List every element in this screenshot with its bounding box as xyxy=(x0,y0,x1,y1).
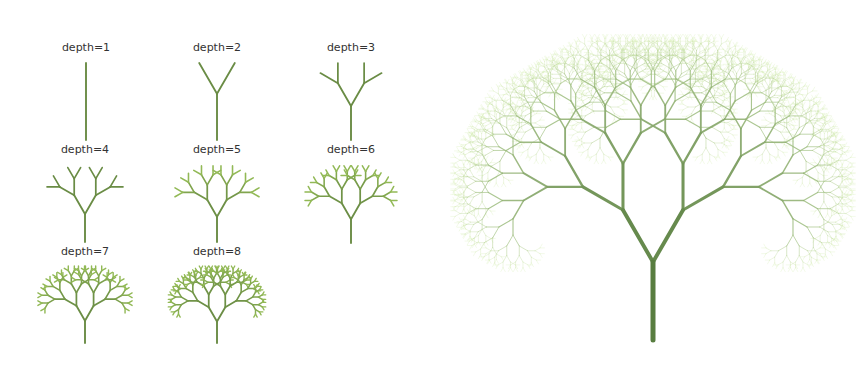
depth-label-2: depth=2 xyxy=(167,41,267,54)
small-tree-depth-7 xyxy=(38,266,132,343)
small-tree-depth-4 xyxy=(47,168,123,242)
depth-label-1: depth=1 xyxy=(36,41,136,54)
small-trees-grid xyxy=(38,63,397,343)
small-tree-depth-2 xyxy=(199,63,235,140)
small-tree-depth-6 xyxy=(305,166,397,243)
small-tree-depth-5 xyxy=(175,166,259,242)
small-tree-depth-3 xyxy=(320,63,381,140)
depth-label-4: depth=4 xyxy=(35,143,135,156)
big-fractal-tree xyxy=(451,35,856,340)
fractal-tree-figure xyxy=(0,0,857,374)
depth-label-6: depth=6 xyxy=(301,143,401,156)
small-tree-depth-8 xyxy=(168,266,265,343)
depth-label-7: depth=7 xyxy=(35,245,135,258)
depth-label-5: depth=5 xyxy=(167,143,267,156)
depth-label-3: depth=3 xyxy=(301,41,401,54)
depth-label-8: depth=8 xyxy=(167,245,267,258)
